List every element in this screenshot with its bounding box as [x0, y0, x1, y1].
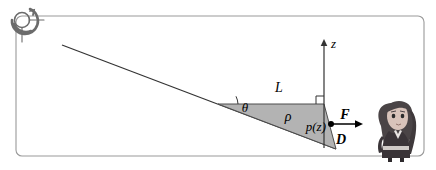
figure-canvas: z L ρ θ p(z) F D: [0, 0, 436, 170]
label-L: L: [274, 80, 283, 95]
physics-diagram: z L ρ θ p(z) F D: [0, 0, 436, 170]
theta-angle-arc: [236, 96, 238, 104]
label-F: F: [339, 107, 350, 122]
label-D: D: [335, 132, 346, 147]
figure-frame: [16, 16, 424, 156]
label-rho: ρ: [284, 109, 292, 124]
label-theta: θ: [242, 100, 249, 115]
cartoon-woman-avatar: [378, 101, 416, 162]
right-angle-marker: [316, 96, 324, 104]
spiral-swirl-icon: [12, 9, 44, 42]
label-z: z: [330, 36, 336, 51]
label-p-of-z: p(z): [305, 119, 326, 134]
